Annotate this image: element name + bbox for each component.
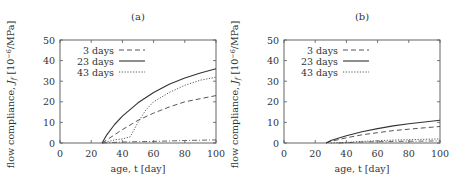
x-axis-label: age, t [day] [335,163,390,174]
legend-label: 43 days [77,67,114,78]
x-axis-label: age, t [day] [111,163,166,174]
legend-label: 3 days [307,45,338,56]
y-axis: 01020304050 [267,35,440,149]
series-line-3-days [326,127,440,144]
series-line-unnamed [102,140,216,143]
x-tick-label: 100 [207,148,225,159]
panel-a: (a)02040608010001020304050age, t [day]fl… [5,11,226,174]
series-line-43-days [102,77,216,143]
x-tick-label: 40 [116,148,128,159]
x-tick-label: 20 [85,148,97,159]
legend-label: 43 days [301,67,338,78]
legend: 3 days23 days43 days [301,45,369,78]
series-group [326,120,440,143]
y-axis-label: flow compliance, Jf [10−6/MPa] [229,21,243,168]
y-tick-label: 40 [43,55,55,66]
legend-label: 23 days [77,56,114,67]
x-tick-label: 80 [403,148,415,159]
x-tick-label: 80 [179,148,191,159]
y-tick-label: 40 [267,55,279,66]
x-tick-label: 20 [309,148,321,159]
y-tick-label: 30 [43,76,55,87]
figure: (a)02040608010001020304050age, t [day]fl… [0,0,469,185]
series-line-43-days [331,139,440,143]
series-group [102,69,216,143]
y-tick-label: 20 [267,96,279,107]
y-tick-label: 20 [43,96,55,107]
x-tick-label: 40 [340,148,352,159]
x-tick-label: 0 [281,148,287,159]
legend-label: 23 days [301,56,338,67]
y-tick-label: 0 [49,138,55,149]
x-tick-label: 100 [431,148,449,159]
x-tick-label: 60 [372,148,384,159]
legend: 3 days23 days43 days [77,45,145,78]
y-tick-label: 30 [267,76,279,87]
y-axis: 01020304050 [43,35,216,149]
panel-b: (b)02040608010001020304050age, t [day]fl… [229,11,450,174]
legend-label: 3 days [83,45,114,56]
panel-title: (a) [131,11,145,22]
y-axis-label: flow compliance, Jf [10−6/MPa] [5,21,19,168]
x-tick-label: 60 [148,148,160,159]
y-tick-label: 50 [267,35,279,46]
panel-title: (b) [355,11,369,22]
y-tick-label: 50 [43,35,55,46]
x-tick-label: 0 [57,148,63,159]
y-tick-label: 10 [267,117,279,128]
y-tick-label: 0 [273,138,279,149]
y-tick-label: 10 [43,117,55,128]
